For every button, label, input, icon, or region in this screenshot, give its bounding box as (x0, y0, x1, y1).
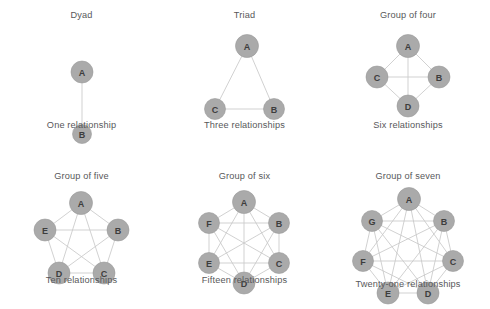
panel-group-of-seven: Group of seven ABCDEFG Twenty-one relati… (326, 155, 490, 309)
node-a: A (235, 35, 258, 58)
node-label: B (115, 226, 122, 236)
node-b: B (263, 99, 284, 120)
graph-dyad: AB (0, 28, 163, 154)
panel-group-of-six: Group of six ABCDEF Fifteen relationship… (163, 155, 326, 309)
node-a: A (71, 61, 93, 83)
dyad-graph-svg: AB (14, 28, 150, 154)
panel-dyad: Dyad AB One relationship (0, 0, 163, 155)
panel-triad: Triad ACB Three relationships (163, 0, 326, 155)
node-f: F (352, 251, 373, 272)
node-g: G (361, 211, 382, 232)
group-of-five-graph-svg: ABCDE (15, 187, 148, 289)
node-f: F (199, 213, 220, 234)
group-of-four-graph-svg: ACBD (351, 28, 465, 124)
node-a: A (70, 192, 93, 215)
panel-caption: Fifteen relationships (163, 276, 326, 285)
node-c: C (204, 99, 225, 120)
graph-group-of-five: ABCDE (0, 187, 163, 289)
relationship-diagram-grid: Dyad AB One relationship Triad ACB Three… (0, 0, 490, 309)
node-label: F (206, 219, 212, 229)
node-d: D (397, 95, 419, 117)
panel-title: Group of six (219, 172, 270, 181)
graph-group-of-seven: ABCDEFG (326, 183, 490, 309)
panel-title: Triad (234, 11, 255, 20)
panel-caption: Twenty-one relationships (326, 280, 490, 289)
panel-caption: Six relationships (326, 121, 490, 130)
group-of-seven-graph-svg: ABCDEFG (334, 183, 483, 309)
panel-title: Group of seven (376, 172, 441, 181)
node-a: A (397, 188, 420, 211)
node-label: G (368, 217, 375, 227)
node-label: B (270, 105, 277, 115)
node-label: C (276, 259, 283, 269)
node-label: E (42, 226, 48, 236)
panel-caption: Ten relationships (0, 276, 163, 285)
node-e: E (199, 253, 220, 274)
node-c: C (269, 253, 290, 274)
node-b: B (269, 213, 290, 234)
graph-group-of-four: ACBD (326, 28, 490, 124)
node-c: C (442, 251, 463, 272)
panel-group-of-five: Group of five ABCDE Ten relationships (0, 155, 163, 309)
node-e: E (34, 219, 56, 241)
node-label: F (360, 257, 366, 267)
node-b: B (433, 211, 454, 232)
panel-caption: One relationship (0, 121, 163, 130)
node-label: A (241, 198, 248, 208)
node-label: E (206, 259, 212, 269)
node-label: A (78, 68, 85, 78)
node-label: A (405, 195, 412, 205)
node-label: A (78, 199, 85, 209)
node-b: B (428, 66, 450, 88)
graph-triad: ACB (163, 28, 326, 128)
node-label: C (211, 105, 218, 115)
node-label: E (384, 289, 390, 299)
node-label: B (78, 130, 85, 140)
panel-group-of-four: Group of four ACBD Six relationships (326, 0, 490, 155)
node-label: D (405, 102, 412, 112)
triad-graph-svg: ACB (182, 28, 308, 128)
panel-title: Group of five (54, 172, 109, 181)
node-label: B (276, 219, 283, 229)
node-label: C (449, 257, 456, 267)
node-b: B (107, 219, 129, 241)
node-label: B (440, 217, 447, 227)
node-label: A (405, 42, 412, 52)
node-label: A (243, 42, 250, 52)
panel-caption: Three relationships (163, 121, 326, 130)
node-c: C (366, 66, 388, 88)
node-a: A (233, 191, 256, 214)
panel-title: Dyad (70, 11, 92, 20)
node-label: C (374, 73, 381, 83)
node-label: D (424, 289, 431, 299)
panel-title: Group of four (380, 11, 436, 20)
node-label: B (436, 73, 443, 83)
node-a: A (397, 35, 420, 58)
